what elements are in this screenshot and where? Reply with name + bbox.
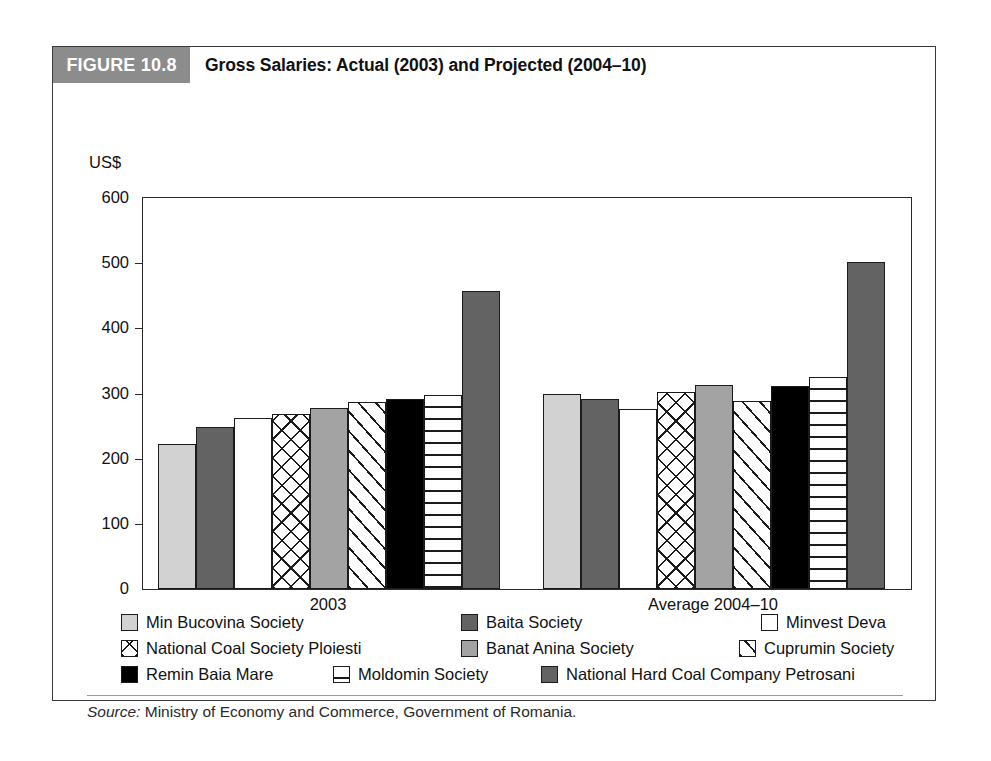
- legend-item: Baita Society: [461, 613, 582, 632]
- legend-label: Minvest Deva: [786, 613, 886, 632]
- bar: [619, 409, 657, 589]
- bar: [733, 401, 771, 589]
- legend-row: National Coal Society PloiestiBanat Anin…: [121, 639, 921, 665]
- y-tick-mark: [135, 263, 143, 264]
- y-tick-mark: [135, 328, 143, 329]
- legend-row: Remin Baia MareMoldomin SocietyNational …: [121, 665, 921, 691]
- legend-item: Minvest Deva: [761, 613, 886, 632]
- bar: [581, 399, 619, 589]
- bar: [348, 402, 386, 589]
- legend-label: Cuprumin Society: [764, 639, 894, 658]
- legend-label: National Coal Society Ploiesti: [146, 639, 362, 658]
- legend-label: Banat Anina Society: [486, 639, 634, 658]
- bar: [424, 395, 462, 589]
- y-tick-label: 0: [83, 579, 129, 598]
- legend-label: National Hard Coal Company Petrosani: [566, 665, 855, 684]
- plot-area: [142, 197, 912, 590]
- bar: [771, 386, 809, 589]
- figure-number-badge: FIGURE 10.8: [53, 47, 190, 83]
- y-tick-label: 500: [83, 253, 129, 272]
- y-axis-unit-label: US$: [89, 153, 121, 172]
- legend-swatch-icon: [739, 640, 756, 657]
- legend-swatch-icon: [333, 666, 350, 683]
- bar: [158, 444, 196, 589]
- source-text: Ministry of Economy and Commerce, Govern…: [140, 703, 576, 720]
- y-tick-label: 100: [83, 513, 129, 532]
- bar: [272, 414, 310, 589]
- legend-swatch-icon: [121, 666, 138, 683]
- bar: [657, 392, 695, 589]
- legend-item: Min Bucovina Society: [121, 613, 304, 632]
- legend-label: Remin Baia Mare: [146, 665, 273, 684]
- bar: [809, 377, 847, 589]
- y-tick-mark: [135, 394, 143, 395]
- source-note: Source: Ministry of Economy and Commerce…: [87, 703, 576, 721]
- source-label: Source:: [87, 703, 140, 720]
- chart-legend: Min Bucovina SocietyBaita SocietyMinvest…: [121, 613, 921, 691]
- bar: [234, 418, 272, 589]
- legend-item: Remin Baia Mare: [121, 665, 273, 684]
- chart-panel: US$ 0100200300400500600 2003Average 2004…: [53, 83, 935, 702]
- bar: [462, 291, 500, 589]
- legend-item: National Hard Coal Company Petrosani: [541, 665, 855, 684]
- legend-item: Moldomin Society: [333, 665, 488, 684]
- y-tick-mark: [135, 524, 143, 525]
- legend-item: Cuprumin Society: [739, 639, 894, 658]
- bar: [695, 385, 733, 589]
- x-axis-group-label: 2003: [310, 595, 347, 614]
- figure-container: FIGURE 10.8 Gross Salaries: Actual (2003…: [52, 46, 936, 701]
- legend-item: Banat Anina Society: [461, 639, 634, 658]
- legend-item: National Coal Society Ploiesti: [121, 639, 362, 658]
- legend-label: Baita Society: [486, 613, 582, 632]
- legend-swatch-icon: [541, 666, 558, 683]
- bar: [847, 262, 885, 589]
- legend-label: Moldomin Society: [358, 665, 488, 684]
- source-divider: [87, 695, 903, 696]
- y-tick-label: 300: [83, 383, 129, 402]
- legend-label: Min Bucovina Society: [146, 613, 304, 632]
- legend-swatch-icon: [461, 640, 478, 657]
- y-tick-label: 400: [83, 318, 129, 337]
- bar: [543, 394, 581, 590]
- legend-swatch-icon: [121, 640, 138, 657]
- y-tick-label: 600: [83, 188, 129, 207]
- bar: [196, 427, 234, 589]
- legend-row: Min Bucovina SocietyBaita SocietyMinvest…: [121, 613, 921, 639]
- x-axis-group-label: Average 2004–10: [648, 595, 778, 614]
- y-tick-label: 200: [83, 448, 129, 467]
- legend-swatch-icon: [461, 614, 478, 631]
- bar: [386, 399, 424, 589]
- legend-swatch-icon: [121, 614, 138, 631]
- figure-title: Gross Salaries: Actual (2003) and Projec…: [205, 47, 646, 83]
- y-tick-mark: [135, 459, 143, 460]
- legend-swatch-icon: [761, 614, 778, 631]
- figure-header: FIGURE 10.8 Gross Salaries: Actual (2003…: [53, 47, 935, 83]
- bar: [310, 408, 348, 589]
